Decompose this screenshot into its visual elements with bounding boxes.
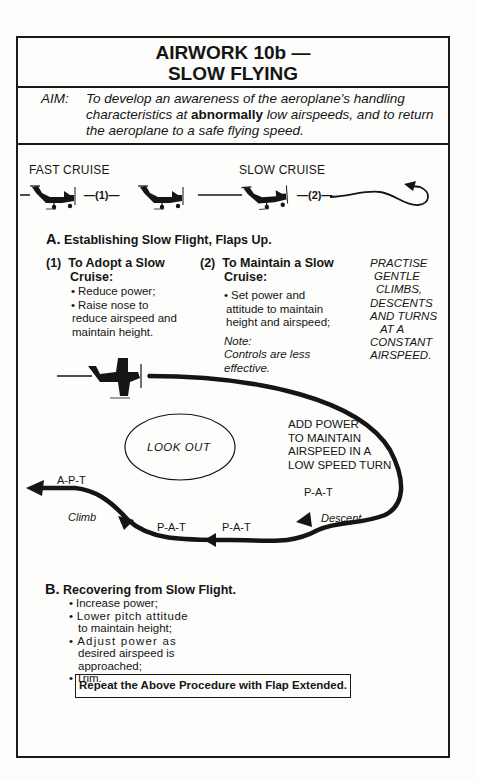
arrow-head-icon bbox=[404, 181, 416, 191]
step-2-number: (2) bbox=[200, 256, 215, 270]
pat-label-2: P-A-T bbox=[222, 521, 251, 533]
practise-line: DESCENTS bbox=[370, 297, 437, 310]
note-text: effective. bbox=[224, 362, 350, 376]
list-item: Raise nose to bbox=[71, 299, 186, 313]
descent-arrow-icon bbox=[296, 512, 312, 527]
climb-arrow-head-icon bbox=[26, 480, 44, 496]
practise-line: CONSTANT bbox=[370, 336, 437, 349]
add-power-line: ADD POWER bbox=[288, 418, 391, 432]
climb-label: Climb bbox=[68, 511, 96, 523]
slow-cruise-aircraft-icon bbox=[241, 184, 288, 210]
adopt-slow-cruise-heading: (1) To Adopt a Slow Cruise: bbox=[46, 256, 186, 284]
look-out-label: LOOK OUT bbox=[147, 441, 210, 453]
section-b-letter: B. bbox=[45, 581, 60, 597]
practise-line: GENTLE bbox=[374, 270, 437, 283]
list-item-continued: desired airspeed is bbox=[78, 647, 188, 660]
fast-cruise-label: FAST CRUISE bbox=[29, 163, 110, 177]
step-2-heading-line1: To Maintain a Slow bbox=[222, 256, 334, 270]
step-1-number: (1) bbox=[46, 256, 61, 270]
cruise-step-2-marker: —(2)— bbox=[297, 189, 332, 201]
practise-line: AND TURNS bbox=[370, 310, 437, 323]
note-label: Note: bbox=[224, 335, 350, 349]
list-item-continued: reduce airspeed and bbox=[72, 312, 186, 326]
pat-label-1: P-A-T bbox=[157, 521, 186, 533]
maintain-slow-cruise-heading: (2) To Maintain a Slow Cruise: bbox=[200, 256, 350, 284]
practise-line: AIRSPEED. bbox=[370, 349, 437, 362]
fast-cruise-aircraft-icon bbox=[20, 186, 75, 209]
maintain-slow-cruise-list: Set power and attitude to maintain heigh… bbox=[224, 289, 350, 375]
list-item-continued: attitude to maintain bbox=[226, 303, 350, 317]
slow-flight-aircraft-icon bbox=[57, 358, 152, 398]
pat-arrow-2-icon bbox=[204, 533, 216, 547]
apt-label: A-P-T bbox=[57, 474, 86, 486]
section-a-heading: A. Establishing Slow Flight, Flaps Up. bbox=[46, 231, 272, 247]
maintain-slow-cruise-block: (2) To Maintain a Slow Cruise: Set power… bbox=[200, 256, 350, 375]
recovery-list: Increase power; Lower pitch attitude to … bbox=[69, 597, 188, 685]
list-item-continued: to maintain height; bbox=[78, 622, 188, 635]
section-b-title: Recovering from Slow Flight. bbox=[63, 583, 236, 597]
list-item-continued: height and airspeed; bbox=[226, 316, 350, 330]
descent-label: Descent bbox=[321, 512, 361, 524]
step-1-heading-line2: Cruise: bbox=[70, 270, 113, 284]
cruise-aircraft-2-icon bbox=[138, 186, 183, 209]
practise-note: PRACTISE GENTLE CLIMBS, DESCENTS AND TUR… bbox=[370, 257, 437, 363]
add-power-line: AIRSPEED IN A bbox=[288, 445, 391, 459]
section-a-letter: A. bbox=[46, 231, 61, 247]
repeat-procedure-note: Repeat the Above Procedure with Flap Ext… bbox=[75, 674, 351, 698]
section-b-heading: B. Recovering from Slow Flight. bbox=[45, 581, 236, 597]
practise-line: PRACTISE bbox=[370, 257, 437, 270]
section-a-title: Establishing Slow Flight, Flaps Up. bbox=[64, 233, 272, 247]
slow-cruise-label: SLOW CRUISE bbox=[239, 163, 325, 177]
practise-line: CLIMBS, bbox=[376, 283, 437, 296]
list-item: Lower pitch attitude bbox=[69, 610, 188, 623]
step-2-heading-line2: Cruise: bbox=[224, 270, 267, 284]
step-1-heading-line1: To Adopt a Slow bbox=[68, 256, 165, 270]
add-power-note: ADD POWER TO MAINTAIN AIRSPEED IN A LOW … bbox=[288, 418, 391, 472]
list-item: Adjust power as bbox=[69, 635, 188, 648]
practise-line: AT A bbox=[380, 323, 437, 336]
pat-label-3: P-A-T bbox=[304, 486, 333, 498]
add-power-line: TO MAINTAIN bbox=[288, 432, 391, 446]
list-item-continued: approached; bbox=[78, 660, 188, 673]
list-item: Increase power; bbox=[69, 597, 188, 610]
cruise-step-1-marker: —(1)— bbox=[84, 189, 119, 201]
list-item-continued: maintain height. bbox=[72, 326, 186, 340]
list-item: Reduce power; bbox=[71, 285, 186, 299]
note-text: Controls are less bbox=[224, 348, 350, 362]
adopt-slow-cruise-block: (1) To Adopt a Slow Cruise: Reduce power… bbox=[46, 256, 186, 339]
list-item: Set power and bbox=[224, 289, 350, 303]
add-power-line: LOW SPEED TURN bbox=[288, 459, 391, 473]
adopt-slow-cruise-list: Reduce power; Raise nose to reduce airsp… bbox=[71, 285, 186, 339]
